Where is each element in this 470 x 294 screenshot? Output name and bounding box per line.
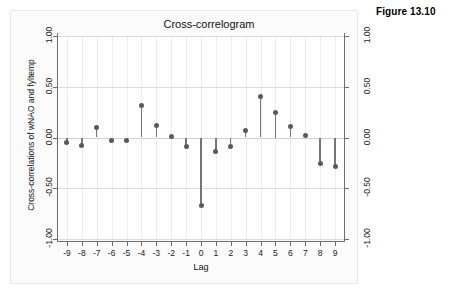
x-tick-mark [246,242,247,246]
data-point [333,164,338,169]
data-point [258,94,263,99]
data-point [228,144,233,149]
data-point [64,140,69,145]
data-point [199,203,204,208]
x-tick-mark [67,242,68,246]
x-tick-mark [141,242,142,246]
y-tick-label-right: -0.50 [362,170,372,204]
y-tick-mark-right [345,188,349,189]
horizontal-gridline [58,239,344,240]
x-tick-mark [335,242,336,246]
x-tick-mark [275,242,276,246]
y-tick-label-left: 0.00 [44,120,54,154]
y-tick-label-right: -1.00 [362,221,372,255]
data-point [318,161,323,166]
y-tick-mark-right [345,87,349,88]
y-tick-mark-right [345,138,349,139]
x-tick-mark [290,242,291,246]
x-tick-mark [305,242,306,246]
x-tick-mark [216,242,217,246]
figure-page: Figure 13.10 Cross-correlogram Cross-cor… [0,0,470,294]
data-point [109,138,114,143]
data-point [139,103,144,108]
plot-area [58,36,344,239]
stem-line [319,138,320,164]
data-point [94,125,99,130]
data-point [303,133,308,138]
stem-line [334,138,335,167]
y-tick-label-left: 1.00 [44,18,54,52]
data-point [213,149,218,154]
x-tick-mark [261,242,262,246]
y-tick-mark-right [345,36,349,37]
stem-line [141,105,142,137]
x-tick-mark [201,242,202,246]
data-point [124,138,129,143]
y-tick-label-left: -1.00 [44,221,54,255]
data-point [288,124,293,129]
x-tick-mark [112,242,113,246]
chart-title: Cross-correlogram [58,18,360,30]
figure-caption: Figure 13.10 [376,6,436,17]
horizontal-gridline [58,36,344,37]
x-tick-mark [82,242,83,246]
data-point [243,128,248,133]
y-tick-label-left: 0.50 [44,69,54,103]
data-point [184,144,189,149]
y-tick-mark-right [345,239,349,240]
y-tick-label-right: 0.00 [362,120,372,154]
stem-line [200,138,201,206]
data-point [79,143,84,148]
x-tick-mark [171,242,172,246]
x-tick-mark [156,242,157,246]
stem-line [260,97,261,138]
x-tick-label: 9 [325,248,345,258]
y-tick-label-left: -0.50 [44,170,54,204]
stem-line [275,112,276,137]
x-tick-mark [186,242,187,246]
data-point [154,123,159,128]
data-point [273,110,278,115]
data-point [169,134,174,139]
x-tick-mark [231,242,232,246]
horizontal-gridline [58,87,344,88]
x-tick-mark [127,242,128,246]
y-tick-label-right: 0.50 [362,69,372,103]
y-tick-label-right: 1.00 [362,18,372,52]
x-axis-title: Lag [58,262,344,272]
y-axis-title: Cross-correlations of wNAO and fyltemp [26,30,36,240]
x-tick-mark [320,242,321,246]
x-tick-mark [97,242,98,246]
